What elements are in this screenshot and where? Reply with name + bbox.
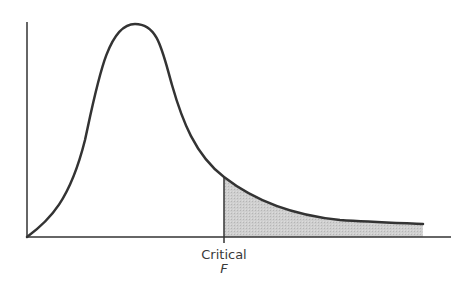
critical-label: Critical — [194, 248, 254, 262]
f-label: F — [194, 262, 254, 276]
rejection-region — [224, 177, 423, 237]
